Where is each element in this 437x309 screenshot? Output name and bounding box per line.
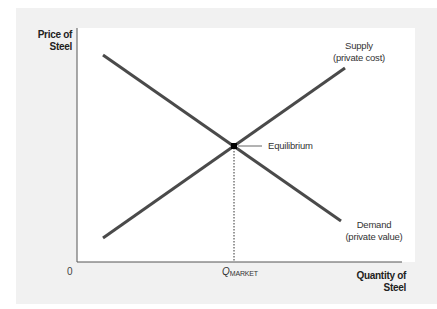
x-axis-label: Quantity of Steel <box>350 270 406 294</box>
demand-label-line1: Demand <box>340 219 408 231</box>
y-axis-label-line2: Steel <box>20 41 72 53</box>
y-axis-label: Price of Steel <box>20 29 72 53</box>
equilibrium-point <box>231 143 237 149</box>
origin-label-text: 0 <box>67 266 73 277</box>
supply-label-line2: (private cost) <box>327 52 391 64</box>
q-market-subscript: MARKET <box>230 270 258 277</box>
x-axis-label-line1: Quantity of <box>350 270 406 282</box>
origin-label: 0 <box>67 266 73 278</box>
supply-curve <box>103 68 345 238</box>
q-market-label: QMARKET <box>222 266 258 279</box>
supply-label: Supply (private cost) <box>327 40 391 64</box>
supply-label-line1: Supply <box>327 40 391 52</box>
y-axis-label-line1: Price of <box>20 29 72 41</box>
demand-label: Demand (private value) <box>340 219 408 243</box>
q-market-main: Q <box>222 266 230 277</box>
equilibrium-label-text: Equilibrium <box>268 140 313 151</box>
equilibrium-label: Equilibrium <box>268 140 328 152</box>
demand-label-line2: (private value) <box>340 231 408 243</box>
demand-curve <box>103 55 341 221</box>
x-axis-label-line2: Steel <box>350 282 406 294</box>
